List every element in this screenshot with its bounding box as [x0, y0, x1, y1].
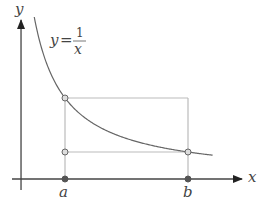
curve-label: y = 1 x	[49, 26, 86, 57]
point-a-at-1-over-b	[62, 149, 68, 155]
y-axis-label: y	[14, 0, 24, 18]
curve-label-denominator: x	[74, 41, 82, 57]
curve-label-lhs: y	[49, 31, 59, 49]
axis-point-a	[62, 176, 68, 182]
tick-label-a: a	[59, 183, 68, 201]
curve-label-equals: =	[60, 31, 73, 49]
curve-point-a	[62, 95, 68, 101]
x-axis-label: x	[248, 168, 257, 186]
hyperbola-diagram: y x a b y = 1 x	[0, 0, 259, 208]
tick-label-b: b	[183, 183, 193, 201]
curve-point-b	[185, 149, 191, 155]
axes	[12, 20, 242, 190]
curve-label-numerator: 1	[76, 26, 84, 40]
axis-point-b	[185, 176, 191, 182]
